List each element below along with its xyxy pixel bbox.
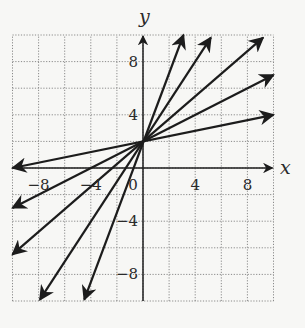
x-tick-label: 8 [243, 176, 253, 194]
x-tick-label: −8 [28, 176, 50, 194]
x-axis-label: x [280, 156, 291, 178]
x-tick-labels: −8−4048 [28, 176, 253, 194]
y-tick-label: −8 [116, 265, 138, 283]
y-tick-label: −4 [116, 212, 138, 230]
y-axis-label: y [138, 5, 150, 27]
x-tick-label: −4 [80, 176, 102, 194]
coordinate-plane-chart: −8−4048 −8−448 x y [0, 0, 305, 328]
y-tick-label: 8 [128, 53, 138, 71]
x-tick-label: 4 [190, 176, 200, 194]
x-tick-label: 0 [128, 176, 138, 194]
y-tick-label: 4 [128, 106, 138, 124]
